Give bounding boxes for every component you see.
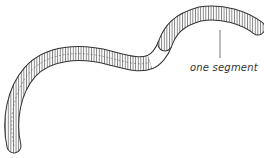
- earthworm-illustration: [0, 0, 264, 158]
- segment-label: one segment: [190, 62, 258, 73]
- earthworm-diagram: one segment: [0, 0, 264, 158]
